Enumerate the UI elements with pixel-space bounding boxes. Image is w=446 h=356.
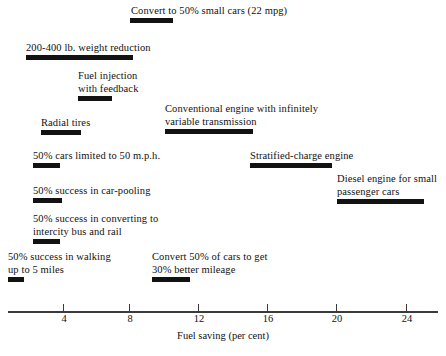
x-axis-title: Fuel saving (per cent): [0, 330, 446, 342]
x-axis-line: [8, 311, 438, 313]
bar-cars-limited-50mph: [33, 163, 60, 168]
x-axis-tick-label-4: 4: [61, 313, 66, 325]
bar-label-intercity-bus-rail: 50% success in converting to intercity b…: [33, 212, 158, 238]
bar-label-walking-5-miles: 50% success in walking up to 5 miles: [8, 250, 111, 276]
bar-convert-small-cars: [130, 18, 173, 23]
bar-walking-5-miles: [8, 277, 24, 282]
bar-weight-reduction: [26, 55, 133, 60]
bar-label-convert-small-cars: Convert to 50% small cars (22 mpg): [131, 4, 287, 17]
bar-cvt-engine: [165, 129, 253, 134]
bar-label-car-pooling: 50% success in car-pooling: [33, 184, 151, 197]
x-axis-tick-label-8: 8: [127, 313, 132, 325]
x-axis-tick-label-16: 16: [263, 313, 274, 325]
x-axis-tick-4: [63, 304, 64, 312]
bar-label-weight-reduction: 200-400 lb. weight reduction: [26, 41, 151, 54]
bar-label-cars-limited-50mph: 50% cars limited to 50 m.p.h.: [33, 149, 160, 162]
bar-fuel-injection: [78, 96, 112, 101]
bar-label-fuel-injection: Fuel injection with feedback: [78, 69, 138, 95]
bar-intercity-bus-rail: [33, 239, 60, 244]
bar-diesel-engine: [337, 199, 424, 204]
bar-label-diesel-engine: Diesel engine for small passenger cars: [337, 172, 437, 198]
x-axis-tick-20: [336, 304, 337, 312]
bar-car-pooling: [33, 198, 62, 203]
fuel-saving-range-chart: Convert to 50% small cars (22 mpg)200-40…: [0, 0, 446, 356]
bar-label-convert-30-better-mpg: Convert 50% of cars to get 30% better mi…: [152, 250, 267, 276]
x-axis-tick-16: [267, 304, 268, 312]
bar-stratified-charge: [250, 163, 332, 168]
x-axis-tick-label-24: 24: [402, 313, 413, 325]
bar-radial-tires: [41, 130, 81, 135]
bar-convert-30-better-mpg: [152, 277, 190, 282]
x-axis-tick-12: [198, 304, 199, 312]
x-axis-tick-label-12: 12: [194, 313, 205, 325]
bar-label-stratified-charge: Stratified-charge engine: [250, 149, 353, 162]
x-axis-tick-24: [406, 304, 407, 312]
bar-label-cvt-engine: Conventional engine with infinitely vari…: [165, 102, 318, 128]
bar-label-radial-tires: Radial tires: [41, 116, 90, 129]
x-axis-tick-label-20: 20: [332, 313, 343, 325]
x-axis-tick-8: [129, 304, 130, 312]
